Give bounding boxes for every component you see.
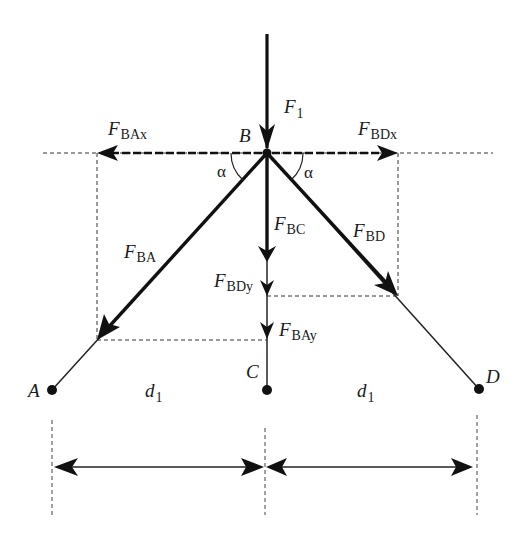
label-fbax: FBAx	[107, 118, 147, 142]
label-dimension-left: d1	[145, 380, 163, 405]
angle-arc-right	[291, 153, 303, 180]
node-c-dot	[262, 385, 272, 395]
label-fbdx: FBDx	[357, 118, 397, 142]
force-diagram-svg: F1 B FBAx FBDx α α FBA FBC FBD FBDy FBAy…	[0, 0, 525, 540]
label-node-d: D	[485, 366, 500, 387]
label-fbdy: FBDy	[213, 270, 253, 294]
force-diagram: F1 B FBAx FBDx α α FBA FBC FBD FBDy FBAy…	[0, 0, 525, 540]
node-d-dot	[474, 384, 484, 394]
node-a-dot	[47, 385, 57, 395]
label-node-b: B	[239, 125, 251, 146]
label-node-a: A	[26, 380, 40, 401]
angle-arc-left	[231, 153, 243, 180]
label-f1: F1	[283, 96, 304, 121]
label-fbd: FBD	[352, 220, 385, 244]
node-b-dot	[263, 149, 272, 158]
label-node-c: C	[246, 361, 259, 382]
label-dimension-right: d1	[357, 380, 375, 405]
label-fbc: FBC	[273, 213, 305, 237]
label-angle-left: α	[217, 162, 226, 181]
label-fba: FBA	[123, 241, 157, 265]
label-fbay: FBAy	[278, 319, 317, 343]
label-angle-right: α	[304, 163, 313, 182]
